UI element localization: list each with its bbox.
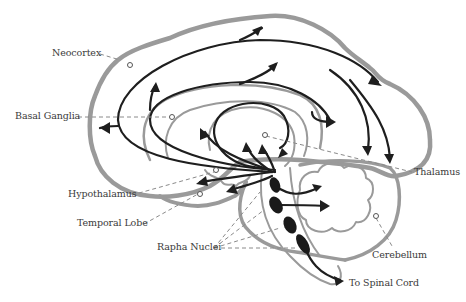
temporal-lobe-dot bbox=[198, 192, 203, 197]
cerebellum-dot bbox=[374, 214, 379, 219]
neocortex-leader bbox=[100, 54, 120, 60]
label-temporal-lobe: Temporal Lobe bbox=[77, 218, 148, 228]
fornix-arc bbox=[166, 101, 307, 158]
hypothalamus-dot bbox=[214, 168, 219, 173]
label-neocortex: Neocortex bbox=[52, 48, 101, 58]
raphe-nucleus-1 bbox=[268, 176, 283, 194]
pathway-outer-down-1 bbox=[330, 70, 369, 150]
thalamus-dot bbox=[263, 133, 268, 138]
basal-ganglia-dot bbox=[170, 115, 175, 120]
label-basal-ganglia: Basal Ganglia bbox=[15, 111, 80, 121]
cerebellum-inner-cloud bbox=[298, 163, 373, 232]
label-hypothalamus: Hypothalamus bbox=[68, 189, 137, 199]
label-cerebellum: Cerebellum bbox=[372, 250, 427, 260]
raphe-nucleus-3 bbox=[281, 214, 299, 235]
pathway-cerebellum-1 bbox=[275, 186, 318, 194]
neocortex-dot bbox=[128, 63, 133, 68]
label-spinal-cord: To Spinal Cord bbox=[349, 278, 419, 288]
pathway-to-temporal-arrow bbox=[230, 176, 272, 190]
label-rapha-nuclei: Rapha Nuclei bbox=[157, 242, 221, 252]
brain-diagram: Neocortex Basal Ganglia Thalamus Hypotha… bbox=[0, 0, 466, 302]
label-thalamus: Thalamus bbox=[414, 167, 460, 177]
pathway-cerebellum-2 bbox=[280, 205, 326, 206]
arrow-heads bbox=[100, 26, 394, 286]
